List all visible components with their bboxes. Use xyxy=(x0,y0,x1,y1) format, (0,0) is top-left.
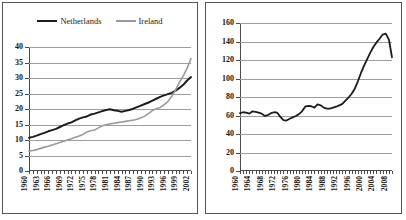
x-tick-label: 1969 xyxy=(56,176,64,191)
x-tick-mark xyxy=(187,171,188,174)
x-tick-mark xyxy=(48,171,49,174)
x-tick-mark xyxy=(324,171,325,174)
x-tick-mark xyxy=(262,171,263,174)
x-tick-mark xyxy=(129,171,130,174)
x-tick-mark xyxy=(133,171,134,174)
x-tick-mark xyxy=(383,171,384,174)
x-tick-label: 2004 xyxy=(369,176,377,191)
y-tick-label: 80 xyxy=(226,93,234,101)
x-tick-mark xyxy=(392,171,393,174)
x-tick-mark xyxy=(280,171,281,174)
x-tick-mark xyxy=(41,171,42,174)
x-tick-mark xyxy=(287,171,288,174)
right-chart-panel: 020406080100120140160 196019641968197219… xyxy=(205,2,402,214)
x-tick-mark xyxy=(29,171,30,174)
x-tick-label: 1968 xyxy=(257,176,265,191)
x-tick-label: 1976 xyxy=(282,176,290,191)
x-tick-mark xyxy=(60,171,61,174)
x-tick-mark xyxy=(311,171,312,174)
x-tick-mark xyxy=(364,171,365,174)
y-tick-label: 0 xyxy=(230,167,234,175)
x-tick-mark xyxy=(318,171,319,174)
x-tick-label: 1984 xyxy=(307,176,315,191)
x-tick-mark xyxy=(367,171,368,174)
legend-entry-ireland: Ireland xyxy=(116,17,163,26)
figure-root: Netherlands Ireland 0510152025303540 196… xyxy=(0,0,406,220)
y-tick-label: 120 xyxy=(222,56,234,64)
x-tick-mark xyxy=(259,171,260,174)
y-tick-label: 30 xyxy=(15,74,23,82)
x-tick-mark xyxy=(252,171,253,174)
x-tick-mark xyxy=(56,171,57,174)
x-tick-label: 2000 xyxy=(356,176,364,191)
left-plot-area: 0510152025303540 19601963196619691972197… xyxy=(29,47,191,171)
x-tick-mark xyxy=(240,171,241,174)
x-tick-mark xyxy=(114,171,115,174)
x-tick-mark xyxy=(118,171,119,174)
x-tick-label: 1980 xyxy=(294,176,302,191)
x-tick-mark xyxy=(102,171,103,174)
x-tick-label: 1960 xyxy=(232,176,240,191)
x-tick-mark xyxy=(336,171,337,174)
x-tick-mark xyxy=(342,171,343,174)
x-tick-mark xyxy=(299,171,300,174)
x-tick-label: 1972 xyxy=(269,176,277,191)
x-tick-mark xyxy=(355,171,356,174)
x-tick-mark xyxy=(68,171,69,174)
y-tick-label: 40 xyxy=(15,43,23,51)
y-tick-label: 140 xyxy=(222,38,234,46)
x-tick-mark xyxy=(91,171,92,174)
x-tick-mark xyxy=(160,171,161,174)
legend-swatch-ireland xyxy=(116,20,136,22)
x-tick-mark xyxy=(156,171,157,174)
x-tick-mark xyxy=(373,171,374,174)
x-tick-label: 1996 xyxy=(344,176,352,191)
y-tick-label: 60 xyxy=(226,112,234,120)
x-tick-mark xyxy=(249,171,250,174)
y-tick-label: 160 xyxy=(222,19,234,27)
x-tick-mark xyxy=(164,171,165,174)
x-tick-mark xyxy=(75,171,76,174)
legend-label-netherlands: Netherlands xyxy=(60,17,101,26)
series-line-netherlands xyxy=(29,77,191,138)
x-tick-mark xyxy=(277,171,278,174)
y-tick-label: 15 xyxy=(15,121,23,129)
x-tick-mark xyxy=(176,171,177,174)
y-tick-label: 35 xyxy=(15,59,23,67)
x-tick-label: 1988 xyxy=(319,176,327,191)
series-line-ireland xyxy=(29,58,191,151)
x-tick-mark xyxy=(293,171,294,174)
x-tick-mark xyxy=(349,171,350,174)
x-tick-mark xyxy=(37,171,38,174)
legend-swatch-netherlands xyxy=(37,20,57,22)
x-tick-mark xyxy=(179,171,180,174)
x-tick-mark xyxy=(52,171,53,174)
x-tick-mark xyxy=(290,171,291,174)
chart-legend: Netherlands Ireland xyxy=(3,17,197,26)
right-series-layer xyxy=(240,23,392,171)
x-tick-mark xyxy=(33,171,34,174)
x-tick-mark xyxy=(87,171,88,174)
x-tick-mark xyxy=(327,171,328,174)
x-tick-mark xyxy=(246,171,247,174)
x-tick-label: 2008 xyxy=(381,176,389,191)
y-tick-label: 5 xyxy=(19,152,23,160)
x-tick-label: 2002 xyxy=(183,176,191,191)
x-tick-label: 1960 xyxy=(21,176,29,191)
y-tick-label: 40 xyxy=(226,130,234,138)
x-tick-mark xyxy=(296,171,297,174)
left-chart-panel: Netherlands Ireland 0510152025303540 196… xyxy=(2,2,198,214)
x-tick-mark xyxy=(283,171,284,174)
x-tick-mark xyxy=(122,171,123,174)
x-tick-mark xyxy=(345,171,346,174)
x-tick-mark xyxy=(330,171,331,174)
x-tick-mark xyxy=(256,171,257,174)
x-tick-mark xyxy=(64,171,65,174)
x-tick-mark xyxy=(191,171,192,174)
x-tick-mark xyxy=(83,171,84,174)
x-tick-label: 1992 xyxy=(331,176,339,191)
y-tick-label: 20 xyxy=(226,149,234,157)
x-tick-mark xyxy=(125,171,126,174)
legend-entry-netherlands: Netherlands xyxy=(37,17,101,26)
x-tick-mark xyxy=(168,171,169,174)
